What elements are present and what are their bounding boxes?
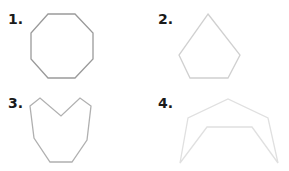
octagon-shape: [31, 14, 93, 78]
figures-canvas: [0, 0, 289, 171]
arch-polygon-shape: [180, 99, 278, 163]
pentagon-shape: [179, 14, 240, 78]
heart-polygon-shape: [30, 98, 91, 162]
